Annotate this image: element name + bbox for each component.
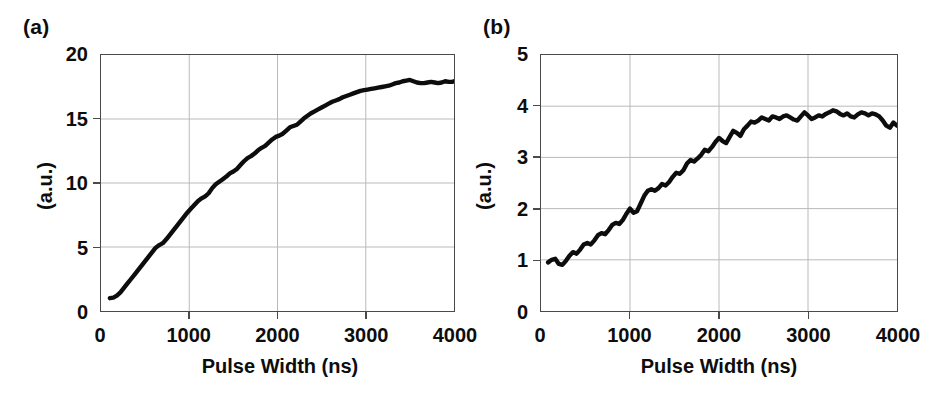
y-tick-label-b-1: 1	[472, 250, 528, 270]
y-tick-mark	[533, 208, 540, 210]
panel-b-plot-area	[540, 54, 898, 312]
y-tick-label-b-5: 5	[472, 44, 528, 64]
x-tick-mark	[808, 312, 810, 319]
x-tick-mark	[365, 312, 367, 319]
x-tick-mark	[188, 312, 190, 319]
panel-b-label: (b)	[483, 16, 511, 37]
x-tick-label-a-4000: 4000	[433, 325, 478, 345]
y-tick-mark	[533, 156, 540, 158]
x-tick-label-a-3000: 3000	[344, 325, 389, 345]
x-tick-label-b-3000: 3000	[786, 325, 831, 345]
x-tick-label-a-0: 0	[94, 325, 105, 345]
y-tick-label-b-0: 0	[472, 302, 528, 322]
y-tick-label-b-2: 2	[472, 199, 528, 219]
panel-a-plot-svg	[101, 55, 454, 311]
x-tick-mark	[718, 312, 720, 319]
y-tick-mark	[93, 118, 100, 120]
x-tick-label-b-0: 0	[534, 325, 545, 345]
x-tick-label-a-1000: 1000	[167, 325, 212, 345]
x-tick-label-a-2000: 2000	[255, 325, 300, 345]
panel-a-plot-area	[100, 54, 455, 312]
panel-a-label: (a)	[23, 16, 50, 37]
x-tick-label-b-4000: 4000	[876, 325, 921, 345]
y-tick-label-a-10: 10	[32, 173, 88, 193]
panel-b-x-axis-title: Pulse Width (ns)	[569, 356, 869, 376]
y-tick-label-a-20: 20	[32, 44, 88, 64]
x-tick-mark	[629, 312, 631, 319]
y-tick-label-a-15: 15	[32, 109, 88, 129]
panel-b-plot-svg	[541, 55, 897, 311]
y-tick-label-b-4: 4	[472, 96, 528, 116]
data-series-line	[110, 80, 454, 298]
y-tick-mark	[533, 260, 540, 262]
y-tick-label-b-3: 3	[472, 147, 528, 167]
panel-b: (b) (a.u.) Pulse Width (ns) 012345010002…	[474, 0, 948, 398]
x-tick-mark	[277, 312, 279, 319]
data-series-line	[548, 110, 897, 265]
y-tick-label-a-5: 5	[32, 238, 88, 258]
panel-a: (a) (a.u.) Pulse Width (ns) 051015200100…	[0, 0, 474, 398]
y-tick-mark	[93, 247, 100, 249]
y-tick-label-a-0: 0	[32, 302, 88, 322]
x-tick-label-b-2000: 2000	[697, 325, 742, 345]
panel-a-x-axis-title: Pulse Width (ns)	[130, 356, 430, 376]
y-tick-mark	[93, 182, 100, 184]
y-tick-mark	[533, 105, 540, 107]
x-tick-label-b-1000: 1000	[607, 325, 652, 345]
figure-root: (a) (a.u.) Pulse Width (ns) 051015200100…	[0, 0, 948, 398]
